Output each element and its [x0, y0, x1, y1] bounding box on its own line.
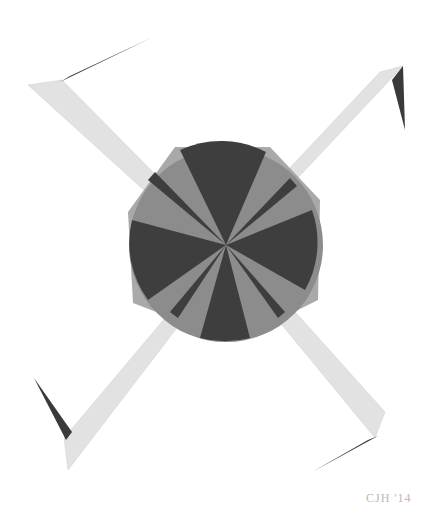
- arm-top-left-tip: [60, 37, 153, 82]
- pinwheel-drawing: [0, 0, 431, 517]
- arm-bottom-left-tip: [34, 378, 72, 440]
- arm-bottom-right-tip: [312, 436, 378, 472]
- artist-signature: CJH '14: [366, 491, 412, 506]
